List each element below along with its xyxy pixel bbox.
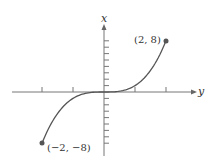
endpoint-bottom bbox=[40, 141, 45, 146]
vertical-axis-label: x bbox=[101, 12, 108, 25]
top-point-label: (2, 8) bbox=[134, 34, 161, 45]
endpoint-top bbox=[164, 39, 169, 44]
horizontal-axis-arrow-icon bbox=[191, 90, 197, 95]
graph: x y (2, 8) (−2, −8) bbox=[0, 0, 215, 161]
horizontal-axis-label: y bbox=[197, 85, 205, 98]
bottom-point-label: (−2, −8) bbox=[47, 142, 91, 153]
